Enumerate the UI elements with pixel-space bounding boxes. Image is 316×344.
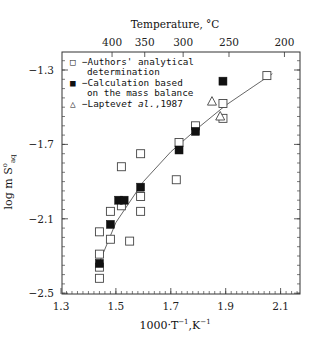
data-point-open-square [172,176,180,184]
top-tick-label: 250 [219,36,239,48]
top-tick-label: 300 [173,36,193,48]
y-tick-label: −2.1 [29,213,55,225]
x-axis-label-sup2: −1 [200,318,210,326]
data-point-open-square [95,250,103,258]
y-axis-label-main: log m S [2,167,15,209]
x-axis-label-sup1: −1 [178,318,188,326]
open-square-icon: □ [70,57,82,67]
data-point-filled-square [137,183,145,191]
top-axis-title: Temperature, °C [0,18,316,30]
data-point-filled-square [192,127,200,135]
data-point-open-square [175,139,183,147]
data-point-filled-square [106,220,114,228]
top-tick-label: 400 [102,36,122,48]
data-point-open-triangle [207,97,216,106]
data-point-open-square [137,207,145,215]
chart-canvas: 1.31.51.71.92.1−1.3−1.7−2.1−2.5400350300… [0,0,316,344]
y-tick-label: −2.5 [29,287,55,299]
y-axis-label: log m Soaq [1,127,17,237]
top-tick-label: 350 [135,36,155,48]
data-point-open-square [126,237,134,245]
data-point-open-square [117,163,125,171]
data-point-open-square [95,274,103,282]
y-axis-label-sub: aq [9,154,17,163]
y-axis-label-sup: o [1,163,9,167]
data-point-open-square [106,235,114,243]
data-point-open-square [137,150,145,158]
x-axis-label: 1000·T−1,K−1 [0,318,316,332]
data-point-open-square [106,207,114,215]
data-point-filled-square [120,196,128,204]
legend-item-laptev: △−Laptev et al.,1987 [70,99,194,109]
data-point-filled-square [95,259,103,267]
x-tick-label: 2.1 [272,300,289,312]
y-tick-label: −1.3 [29,64,55,76]
legend: □−Authors' analytical determination ■−Ca… [70,57,194,109]
data-point-filled-square [219,77,227,85]
legend-text: −Laptev [82,99,121,109]
x-tick-label: 1.3 [53,300,70,312]
open-triangle-icon: △ [70,99,82,109]
data-point-open-square [263,72,271,80]
x-tick-label: 1.7 [162,300,179,312]
x-axis-label-main: 1000·T [139,319,178,332]
data-point-open-square [219,99,227,107]
x-tick-label: 1.5 [108,300,125,312]
x-axis-label-mid: ,K [189,319,201,332]
data-point-open-square [95,228,103,236]
legend-text: ,1987 [155,99,183,109]
top-tick-label: 200 [274,36,294,48]
legend-text-italic: et al. [121,99,155,109]
data-point-filled-square [175,146,183,154]
data-point-open-square [137,192,145,200]
x-tick-label: 1.9 [217,300,234,312]
filled-square-icon: ■ [70,78,82,88]
y-tick-label: −1.7 [29,138,55,150]
